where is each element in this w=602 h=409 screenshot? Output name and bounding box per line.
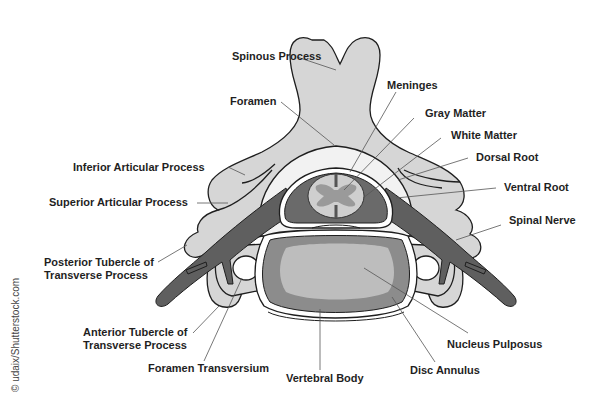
vertebra-diagram: Spinous Process Foramen Meninges Gray Ma…	[0, 0, 602, 409]
label-ventral-root: Ventral Root	[504, 181, 569, 194]
label-vertebral-body: Vertebral Body	[286, 372, 364, 385]
spinal-cord	[308, 174, 364, 218]
label-superior-articular-process: Superior Articular Process	[49, 196, 188, 209]
vertebral-body	[255, 225, 417, 321]
image-credit: © udaix/Shutterstock.com	[10, 278, 21, 392]
label-white-matter: White Matter	[451, 129, 517, 142]
label-posterior-tubercle-line2: Transverse Process	[44, 269, 154, 282]
label-anterior-tubercle-line2: Transverse Process	[83, 339, 187, 352]
dorsal-median-fissure	[335, 174, 338, 187]
label-dorsal-root: Dorsal Root	[476, 151, 538, 164]
nucleus-pulposus-shape	[280, 244, 394, 300]
label-inferior-articular-process: Inferior Articular Process	[73, 161, 205, 174]
label-spinal-nerve: Spinal Nerve	[509, 214, 576, 227]
label-nucleus-pulposus: Nucleus Pulposus	[447, 338, 542, 351]
label-foramen: Foramen	[230, 95, 276, 108]
label-posterior-tubercle: Posterior Tubercle of Transverse Process	[44, 256, 154, 282]
label-disc-annulus: Disc Annulus	[410, 364, 480, 377]
ventral-median-fissure	[335, 205, 338, 218]
label-foramen-transversium: Foramen Transversium	[148, 362, 269, 375]
label-gray-matter: Gray Matter	[425, 107, 486, 120]
label-anterior-tubercle-line1: Anterior Tubercle of	[83, 326, 187, 339]
label-spinous-process: Spinous Process	[232, 50, 321, 63]
label-posterior-tubercle-line1: Posterior Tubercle of	[44, 256, 154, 269]
label-meninges: Meninges	[387, 79, 438, 92]
label-anterior-tubercle: Anterior Tubercle of Transverse Process	[83, 326, 187, 352]
